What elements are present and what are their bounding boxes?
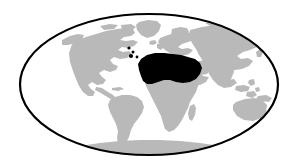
atlantic-island-dot-4 bbox=[136, 56, 139, 59]
atlantic-island-dot-2 bbox=[132, 51, 135, 54]
atlantic-island-dot-3 bbox=[129, 54, 133, 58]
world-map-svg bbox=[0, 0, 298, 168]
atlantic-island-dot-1 bbox=[127, 46, 130, 49]
world-distribution-map bbox=[0, 0, 298, 168]
